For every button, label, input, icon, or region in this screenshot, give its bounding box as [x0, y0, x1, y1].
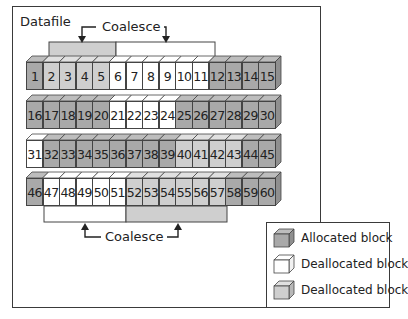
block-coal: 5 — [92, 62, 109, 90]
block-row: 464748495051525354555657585960 — [26, 172, 283, 206]
block-free: 51 — [109, 178, 126, 206]
block-alloc: 26 — [192, 101, 209, 129]
block-free: 47 — [43, 178, 60, 206]
block-free: 21 — [109, 101, 126, 129]
block-alloc: 32 — [43, 140, 60, 168]
legend-label: Allocated block — [301, 231, 393, 245]
block-coal: 4 — [76, 62, 93, 90]
block-coal: 2 — [43, 62, 60, 90]
legend-item-deallocated: Deallocated block — [273, 254, 408, 274]
block-alloc: 46 — [26, 178, 43, 206]
block-alloc: 14 — [242, 62, 259, 90]
block-alloc: 60 — [258, 178, 275, 206]
block-row: 161718192021222324252627282930 — [26, 95, 283, 129]
block-free: 7 — [126, 62, 143, 90]
block-alloc: 20 — [92, 101, 109, 129]
block-free: 10 — [175, 62, 192, 90]
block-alloc: 27 — [209, 101, 226, 129]
block-alloc: 19 — [76, 101, 93, 129]
block-coal: 55 — [175, 178, 192, 206]
arrowhead-icon — [174, 223, 182, 230]
block-alloc: 12 — [209, 62, 226, 90]
block-coal: 40 — [175, 140, 192, 168]
block-alloc: 34 — [76, 140, 93, 168]
block-coal: 56 — [192, 178, 209, 206]
block-row: 123456789101112131415 — [26, 56, 283, 90]
block-coal: 52 — [126, 178, 143, 206]
coalesce-bracket-bottom-gray — [126, 206, 227, 222]
block-row: 313233343536373839404142434445 — [26, 134, 283, 168]
block-alloc: 35 — [92, 140, 109, 168]
block-free: 6 — [109, 62, 126, 90]
legend-item-allocated: Allocated block — [273, 228, 393, 248]
block-free: 50 — [92, 178, 109, 206]
block-coal: 41 — [192, 140, 209, 168]
legend-item-deallocated-coalesced: Deallocated block — [273, 280, 408, 300]
block-alloc: 45 — [258, 140, 275, 168]
deallocated-cube-icon — [273, 254, 295, 274]
block-alloc: 17 — [43, 101, 60, 129]
block-alloc: 28 — [225, 101, 242, 129]
block-free: 11 — [192, 62, 209, 90]
block-alloc: 58 — [225, 178, 242, 206]
block-free: 31 — [26, 140, 43, 168]
block-alloc: 59 — [242, 178, 259, 206]
block-alloc: 33 — [59, 140, 76, 168]
block-alloc: 38 — [142, 140, 159, 168]
legend-label: Deallocated block — [301, 283, 408, 297]
block-alloc: 25 — [175, 101, 192, 129]
block-alloc: 44 — [242, 140, 259, 168]
block-coal: 57 — [209, 178, 226, 206]
block-coal: 3 — [59, 62, 76, 90]
coalesce-label-top: Coalesce — [99, 20, 164, 34]
block-coal: 43 — [225, 140, 242, 168]
block-alloc: 16 — [26, 101, 43, 129]
block-alloc: 29 — [242, 101, 259, 129]
block-free: 22 — [126, 101, 143, 129]
block-free: 8 — [142, 62, 159, 90]
block-alloc: 13 — [225, 62, 242, 90]
legend-label: Deallocated block — [301, 257, 408, 271]
block-alloc: 18 — [59, 101, 76, 129]
coalesced-cube-icon — [273, 280, 295, 300]
block-alloc: 15 — [258, 62, 275, 90]
block-coal: 42 — [209, 140, 226, 168]
block-free: 49 — [76, 178, 93, 206]
block-free: 9 — [159, 62, 176, 90]
block-free: 48 — [59, 178, 76, 206]
block-free: 23 — [142, 101, 159, 129]
block-alloc: 1 — [26, 62, 43, 90]
allocated-cube-icon — [273, 228, 295, 248]
block-coal: 53 — [142, 178, 159, 206]
block-alloc: 36 — [109, 140, 126, 168]
legend: Allocated block Deallocated block Deallo… — [266, 222, 390, 308]
coalesce-bracket-bottom-white — [44, 206, 126, 222]
coalesce-label-bottom: Coalesce — [102, 230, 167, 244]
block-coal: 54 — [159, 178, 176, 206]
arrowhead-icon — [81, 223, 89, 230]
block-alloc: 30 — [258, 101, 275, 129]
block-free: 24 — [159, 101, 176, 129]
block-alloc: 39 — [159, 140, 176, 168]
block-alloc: 37 — [126, 140, 143, 168]
